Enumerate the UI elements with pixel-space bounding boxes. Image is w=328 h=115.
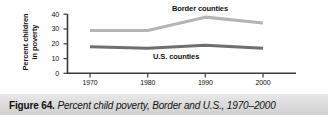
y-tick-label-40: 40 <box>45 11 59 18</box>
y-tick-label-10: 10 <box>45 55 59 62</box>
caption-figure-number: Figure 64. <box>9 100 55 111</box>
figure-container: Percent children in poverty 40 30 20 10 … <box>0 0 328 115</box>
y-tick-label-20: 20 <box>45 40 59 47</box>
y-axis-title-line-2: in poverty <box>30 13 39 70</box>
y-tick-label-0: 0 <box>45 70 59 77</box>
x-tick-label-2000: 2000 <box>250 79 276 86</box>
x-tick-label-1990: 1990 <box>192 79 218 86</box>
caption-band: Figure 64. Percent child poverty, Border… <box>0 93 328 115</box>
y-tick-label-30: 30 <box>45 25 59 32</box>
y-axis-title: Percent children in poverty <box>16 6 44 78</box>
series-line-us-counties <box>90 45 263 48</box>
caption: Figure 64. Percent child poverty, Border… <box>0 100 276 111</box>
caption-figure-title: Percent child poverty, Border and U.S., … <box>57 100 275 111</box>
series-line-border-counties <box>90 17 263 30</box>
x-tick-label-1970: 1970 <box>77 79 103 86</box>
x-tick-label-1980: 1980 <box>135 79 161 86</box>
chart-plot-area: Percent children in poverty 40 30 20 10 … <box>0 0 328 90</box>
series-label-us-counties: U.S. counties <box>153 52 199 61</box>
series-label-border-counties: Border counties <box>172 4 228 13</box>
